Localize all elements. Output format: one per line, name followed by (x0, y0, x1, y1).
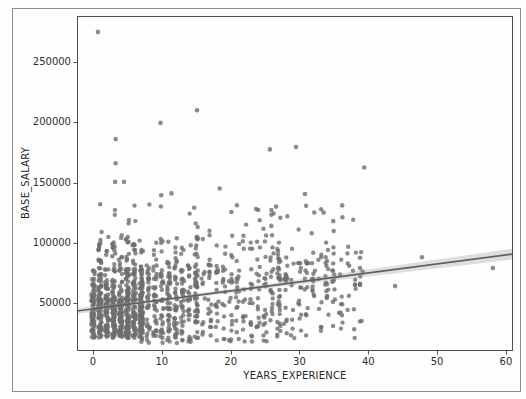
scatter-points (89, 30, 495, 346)
scatter-point (113, 161, 118, 166)
scatter-point (269, 224, 274, 229)
scatter-point (122, 180, 127, 185)
scatter-point (229, 210, 234, 215)
x-tick-label: 0 (73, 356, 113, 368)
scatter-point (158, 121, 163, 126)
scatter-point (192, 206, 197, 211)
scatter-point (294, 145, 299, 150)
scatter-point (217, 186, 222, 191)
scatter-point (113, 137, 118, 142)
x-tick-label: 60 (486, 356, 526, 368)
scatter-point (358, 266, 363, 271)
plot-area (0, 0, 526, 399)
y-tick-label: 250000 (26, 56, 71, 68)
scatter-point (113, 180, 118, 185)
scatter-point (420, 255, 425, 260)
scatter-point (362, 165, 367, 170)
x-tick-label: 40 (348, 356, 388, 368)
scatter-point (169, 191, 174, 196)
scatter-point (393, 284, 398, 289)
scatter-point (268, 147, 273, 152)
scatter-point (254, 207, 259, 212)
scatter-point (340, 203, 345, 208)
scatter-point (358, 255, 363, 260)
x-tick-label: 50 (417, 356, 457, 368)
scatter-plot-figure: BASE_SALARY YEARS_EXPERIENCE 01020304050… (0, 0, 526, 399)
y-tick-label: 100000 (26, 237, 71, 249)
scatter-point (491, 266, 496, 271)
y-tick-label: 200000 (26, 116, 71, 128)
x-tick-label: 30 (279, 356, 319, 368)
scatter-point (331, 219, 336, 224)
scatter-point (303, 192, 308, 197)
scatter-point (321, 210, 326, 215)
y-tick-label: 50000 (26, 297, 71, 309)
x-tick-label: 20 (211, 356, 251, 368)
scatter-point (159, 193, 164, 198)
scatter-point (195, 108, 200, 113)
scatter-point (274, 204, 279, 209)
scatter-point (96, 30, 101, 35)
scatter-point (358, 281, 363, 286)
y-tick-label: 150000 (26, 177, 71, 189)
x-tick-label: 10 (142, 356, 182, 368)
x-axis-label: YEARS_EXPERIENCE (215, 370, 375, 381)
